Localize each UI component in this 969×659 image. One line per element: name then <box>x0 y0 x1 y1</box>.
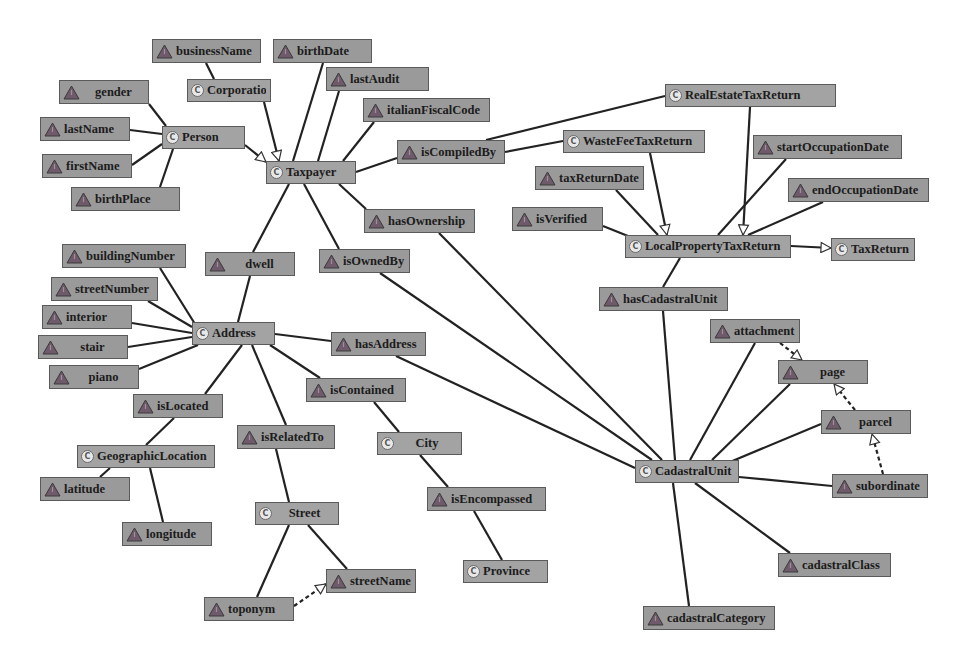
relation-edge <box>132 144 162 165</box>
property-triangle-icon <box>330 72 347 87</box>
property-node-hasCadastralUnit[interactable]: hasCadastralUnit <box>599 287 728 311</box>
relation-edge <box>160 268 195 324</box>
property-node-page[interactable]: page <box>778 360 868 384</box>
subclass-edge <box>791 246 831 248</box>
node-label: firstName <box>66 159 127 174</box>
class-icon: C <box>270 166 283 179</box>
property-triangle-icon <box>66 249 83 264</box>
class-node-Corporation[interactable]: CCorporation <box>187 79 271 102</box>
subclass-edge <box>872 434 883 474</box>
subclass-edge <box>264 102 279 161</box>
property-node-piano[interactable]: piano <box>49 365 139 389</box>
property-node-firstName[interactable]: firstName <box>42 154 132 178</box>
property-node-endOccupationDate[interactable]: endOccupationDate <box>788 178 929 202</box>
property-triangle-icon <box>63 85 80 100</box>
property-triangle-icon <box>539 171 556 186</box>
property-triangle-icon <box>46 310 63 325</box>
class-node-WasteFeeTaxReturn[interactable]: CWasteFeeTaxReturn <box>563 130 705 153</box>
relation-edge <box>257 525 289 597</box>
relation-edge <box>150 468 163 522</box>
relation-edge <box>474 511 502 560</box>
class-node-Address[interactable]: CAddress <box>192 322 275 345</box>
property-node-subordinate[interactable]: subordinate <box>832 474 928 498</box>
relation-edge <box>748 202 823 235</box>
class-node-CadastralUnit[interactable]: CCadastralUnit <box>635 460 739 483</box>
class-node-GeographicLocation[interactable]: CGeographicLocation <box>77 445 215 468</box>
property-triangle-icon <box>137 399 154 414</box>
property-node-isLocated[interactable]: isLocated <box>133 394 223 418</box>
relation-edge <box>275 334 331 341</box>
class-node-LocalPropertyTaxReturn[interactable]: CLocalPropertyTaxReturn <box>625 235 791 258</box>
node-label: lastName <box>64 122 125 137</box>
property-node-hasAddress[interactable]: hasAddress <box>331 332 426 356</box>
relation-edge <box>205 345 242 394</box>
property-node-attachment[interactable]: attachment <box>710 319 800 343</box>
relation-edge <box>139 345 198 369</box>
property-node-interior[interactable]: interior <box>42 305 132 329</box>
subclass-edge <box>743 107 750 235</box>
node-label: page <box>802 365 863 380</box>
relation-edge <box>343 122 374 161</box>
property-node-isEncompassed[interactable]: isEncompassed <box>427 487 546 511</box>
relation-edge <box>616 190 658 235</box>
property-node-stair[interactable]: stair <box>38 335 128 359</box>
node-label: isLocated <box>157 399 218 414</box>
property-node-isContained[interactable]: isContained <box>306 378 406 402</box>
property-triangle-icon <box>714 324 731 339</box>
property-node-startOccupationDate[interactable]: startOccupationDate <box>753 135 902 159</box>
relation-edge <box>339 184 366 209</box>
property-triangle-icon <box>757 140 774 155</box>
node-label: Province <box>483 564 543 579</box>
property-node-dwell[interactable]: dwell <box>205 252 295 276</box>
node-label: GeographicLocation <box>97 449 210 464</box>
property-triangle-icon <box>401 145 418 160</box>
property-node-buildingNumber[interactable]: buildingNumber <box>62 244 186 268</box>
relation-edge <box>663 258 680 287</box>
node-label: birthPlace <box>95 192 175 207</box>
class-node-Street[interactable]: CStreet <box>255 502 339 525</box>
node-label: italianFiscalCode <box>387 103 485 118</box>
property-triangle-icon <box>836 479 853 494</box>
node-label: City <box>397 436 457 451</box>
property-node-birthDate[interactable]: birthDate <box>273 39 372 63</box>
property-triangle-icon <box>782 365 799 380</box>
relation-edge <box>130 130 162 134</box>
node-label: birthDate <box>297 44 367 59</box>
property-node-hasOwnership[interactable]: hasOwnership <box>364 209 475 233</box>
relation-edge <box>276 449 289 502</box>
property-triangle-icon <box>825 415 842 430</box>
class-node-City[interactable]: CCity <box>377 432 462 455</box>
property-node-lastName[interactable]: lastName <box>40 117 130 141</box>
relation-edge <box>149 104 166 126</box>
property-node-streetName[interactable]: streetName <box>326 569 416 593</box>
relation-edge <box>132 323 192 333</box>
property-node-isVerified[interactable]: isVerified <box>512 207 603 231</box>
property-node-lastAudit[interactable]: lastAudit <box>326 67 429 91</box>
relation-edge <box>673 483 689 606</box>
property-node-latitude[interactable]: latitude <box>40 477 130 501</box>
property-node-toponym[interactable]: toponym <box>204 597 294 621</box>
class-node-RealEstateTaxReturn[interactable]: CRealEstateTaxReturn <box>665 84 836 107</box>
property-node-isOwnedBy[interactable]: isOwnedBy <box>319 249 410 273</box>
class-node-Person[interactable]: CPerson <box>162 126 245 149</box>
property-node-parcel[interactable]: parcel <box>821 410 911 434</box>
relation-edge <box>270 345 320 378</box>
property-node-streetNumber[interactable]: streetNumber <box>51 277 158 301</box>
property-node-cadastralCategory[interactable]: cadastralCategory <box>643 606 775 630</box>
class-node-Taxpayer[interactable]: CTaxpayer <box>266 161 356 184</box>
relation-edge <box>356 158 397 172</box>
property-triangle-icon <box>156 44 173 59</box>
class-node-TaxReturn[interactable]: CTaxReturn <box>831 238 915 261</box>
relation-edge <box>695 483 790 553</box>
property-node-taxReturnDate[interactable]: taxReturnDate <box>535 166 644 190</box>
property-node-birthPlace[interactable]: birthPlace <box>71 187 180 211</box>
property-node-italianFiscalCode[interactable]: italianFiscalCode <box>363 98 490 122</box>
property-node-businessName[interactable]: businessName <box>152 39 261 63</box>
property-node-cadastralClass[interactable]: cadastralClass <box>778 553 891 577</box>
class-icon: C <box>639 465 652 478</box>
property-node-gender[interactable]: gender <box>59 80 149 104</box>
class-node-Province[interactable]: CProvince <box>463 560 548 583</box>
property-node-longitude[interactable]: longitude <box>122 522 212 546</box>
property-node-isCompiledBy[interactable]: isCompiledBy <box>397 140 505 164</box>
property-node-isRelatedTo[interactable]: isRelatedTo <box>237 425 335 449</box>
